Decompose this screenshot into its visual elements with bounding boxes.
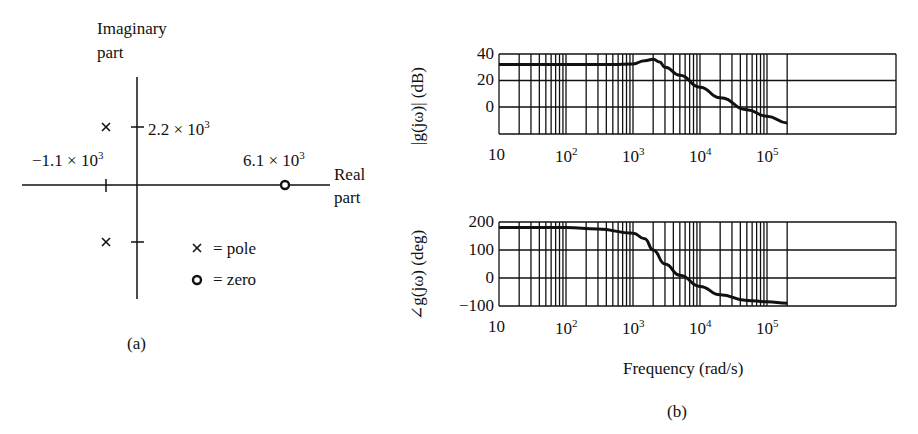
ytick-label: −100	[459, 297, 494, 314]
xtick-label: 104	[689, 146, 712, 165]
magnitude-curve	[499, 59, 787, 123]
xtick-label: 105	[756, 318, 779, 337]
phase-grid	[499, 222, 896, 306]
legend-zero-text: = zero	[213, 271, 256, 288]
xtick-label: 104	[689, 318, 712, 337]
ytick-label: 40	[477, 45, 494, 62]
imag-tick-exp: 3	[204, 118, 210, 130]
phase-curve	[499, 228, 787, 304]
ytick-label: 20	[477, 71, 494, 88]
imag-tick-label: 2.2 × 103	[148, 119, 210, 138]
zero-exp: 3	[299, 149, 305, 161]
imag-axis-label: Imaginary	[97, 20, 167, 37]
pole-real-label: −1.1 × 103	[32, 150, 103, 169]
xtick-label: 102	[555, 318, 578, 337]
frequency-xlabel: Frequency (rad/s)	[623, 360, 743, 377]
pole-marker	[102, 123, 201, 252]
caption-b: (b)	[667, 403, 687, 420]
phase-ylabel: ∠g(jω) (deg)	[409, 230, 426, 320]
zero-legend-marker	[193, 276, 201, 284]
xtick-label: 103	[622, 146, 645, 165]
imag-axis-label-2: part	[97, 44, 123, 61]
imag-tick-value: 2.2 × 10	[148, 120, 204, 139]
legend-pole-text: = pole	[213, 240, 256, 257]
xtick-label: 103	[622, 318, 645, 337]
pole-real-value: −1.1 × 10	[32, 151, 98, 170]
pole-real-exp: 3	[98, 149, 104, 161]
real-axis-label: Real	[334, 166, 365, 183]
ytick-label: 200	[469, 213, 495, 230]
ytick-label: 0	[486, 269, 495, 286]
real-axis-label-2: part	[334, 189, 360, 206]
caption-a: (a)	[127, 335, 146, 352]
zero-marker	[281, 181, 289, 189]
magnitude-ylabel: |g(jω)| (dB)	[409, 67, 426, 145]
xtick-label: 105	[756, 146, 779, 165]
xtick-label: 102	[555, 146, 578, 165]
figure-graphics	[0, 0, 918, 434]
xtick-label: 10	[488, 318, 505, 335]
ytick-label: 0	[486, 98, 495, 115]
zero-label: 6.1 × 103	[243, 150, 305, 169]
xtick-label: 10	[488, 146, 505, 163]
zero-value: 6.1 × 10	[243, 151, 299, 170]
ytick-label: 100	[469, 241, 495, 258]
